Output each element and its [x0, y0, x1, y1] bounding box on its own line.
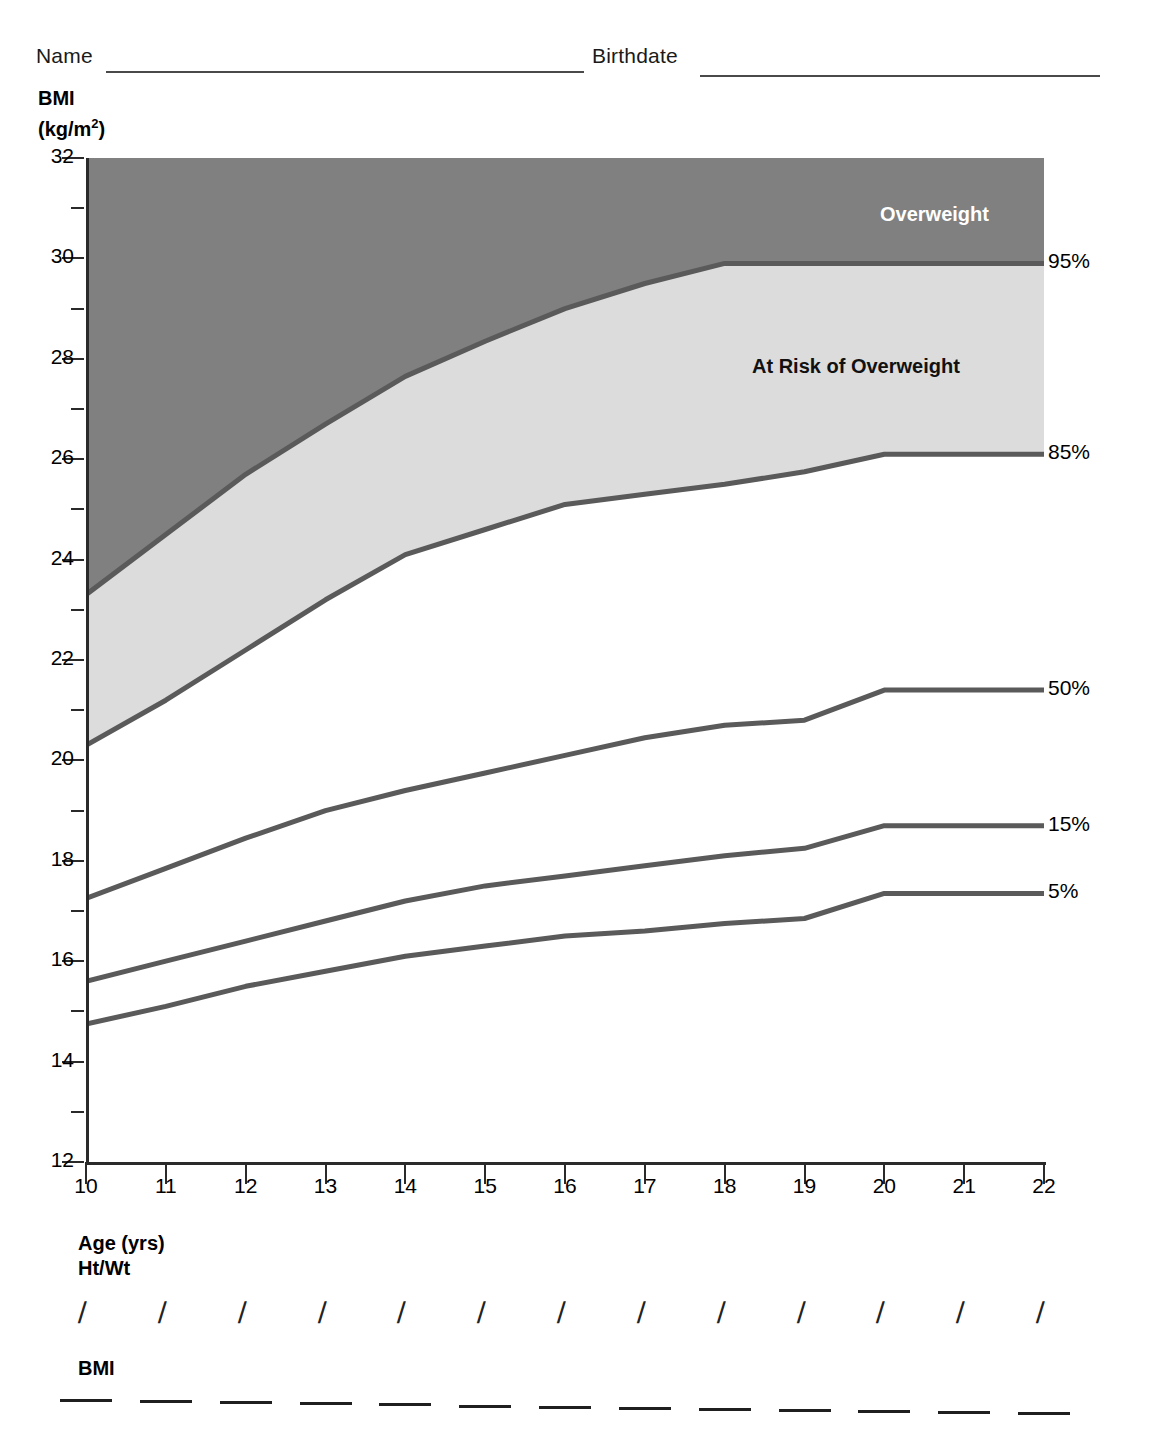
- htwt-entry-slash[interactable]: /: [876, 1296, 886, 1330]
- y-tick-label-20: 20: [34, 746, 74, 770]
- y-tick-label-30: 30: [34, 244, 74, 268]
- htwt-entry-slash[interactable]: /: [157, 1296, 167, 1330]
- name-label: Name: [36, 44, 93, 68]
- percentile-label-5pct: 5%: [1048, 879, 1078, 903]
- htwt-entry-slash[interactable]: /: [397, 1296, 407, 1330]
- y-tick-label-28: 28: [34, 345, 74, 369]
- x-tick-label-13: 13: [306, 1174, 346, 1198]
- bmi-entry-dash[interactable]: [619, 1407, 671, 1410]
- form-header: Name Birthdate: [0, 22, 1173, 62]
- birthdate-label: Birthdate: [592, 44, 678, 68]
- y-tick-minor-25: [71, 508, 84, 510]
- x-tick-label-18: 18: [705, 1174, 745, 1198]
- percentile-label-15pct: 15%: [1048, 812, 1090, 836]
- x-tick-label-16: 16: [545, 1174, 585, 1198]
- htwt-entry-slash[interactable]: /: [477, 1296, 487, 1330]
- htwt-entry-slash[interactable]: /: [237, 1296, 247, 1330]
- htwt-entry-slash[interactable]: /: [1035, 1296, 1045, 1330]
- x-tick-label-12: 12: [226, 1174, 266, 1198]
- bmi-entry-dash[interactable]: [220, 1401, 272, 1404]
- y-tick-label-12: 12: [34, 1148, 74, 1172]
- y-tick-minor-19: [71, 810, 84, 812]
- zone-label-overweight: Overweight: [880, 203, 989, 226]
- bmi-entry-dash[interactable]: [779, 1409, 831, 1412]
- bmi-entry-dash[interactable]: [379, 1403, 431, 1406]
- bmi-entry-dash[interactable]: [858, 1410, 910, 1413]
- htwt-entry-slash[interactable]: /: [956, 1296, 966, 1330]
- y-tick-label-22: 22: [34, 646, 74, 670]
- x-tick-label-19: 19: [785, 1174, 825, 1198]
- y-axis-line: [86, 158, 89, 1162]
- bmi-entry-dash[interactable]: [938, 1411, 990, 1414]
- x-axis-line: [86, 1162, 1046, 1165]
- y-tick-minor-17: [71, 910, 84, 912]
- x-tick-label-11: 11: [146, 1174, 186, 1198]
- y-tick-label-26: 26: [34, 445, 74, 469]
- percentile-label-50pct: 50%: [1048, 676, 1090, 700]
- bmi-row-label: BMI: [78, 1357, 115, 1380]
- bmi-entry-dash[interactable]: [60, 1399, 112, 1402]
- y-tick-minor-31: [71, 207, 84, 209]
- htwt-entry-slash[interactable]: /: [796, 1296, 806, 1330]
- bmi-entry-dash[interactable]: [459, 1405, 511, 1408]
- y-tick-minor-15: [71, 1010, 84, 1012]
- x-axis-title: Age (yrs): [78, 1232, 165, 1255]
- y-tick-minor-23: [71, 609, 84, 611]
- y-axis-title: BMI (kg/m2): [38, 86, 105, 142]
- y-axis-title-line1: BMI: [38, 86, 105, 111]
- birthdate-input-rule[interactable]: [700, 75, 1100, 77]
- y-tick-label-14: 14: [34, 1048, 74, 1072]
- htwt-entry-slash[interactable]: /: [716, 1296, 726, 1330]
- x-tick-label-20: 20: [864, 1174, 904, 1198]
- y-axis-units-pre: (kg/m: [38, 118, 91, 140]
- y-tick-minor-21: [71, 709, 84, 711]
- y-tick-label-16: 16: [34, 947, 74, 971]
- bmi-entry-dash[interactable]: [539, 1406, 591, 1409]
- y-tick-minor-29: [71, 308, 84, 310]
- percentile-label-95pct: 95%: [1048, 249, 1090, 273]
- bmi-entry-dash[interactable]: [1018, 1412, 1070, 1415]
- y-tick-label-24: 24: [34, 546, 74, 570]
- name-input-rule[interactable]: [106, 71, 584, 73]
- htwt-row-label: Ht/Wt: [78, 1257, 130, 1280]
- x-tick-label-14: 14: [385, 1174, 425, 1198]
- chart-plot-area: [86, 158, 1044, 1162]
- y-axis-units-post: ): [99, 118, 106, 140]
- htwt-entry-slash[interactable]: /: [636, 1296, 646, 1330]
- percentile-label-85pct: 85%: [1048, 440, 1090, 464]
- zone-label-at-risk: At Risk of Overweight: [752, 355, 960, 378]
- htwt-entry-slash[interactable]: /: [317, 1296, 327, 1330]
- y-tick-label-32: 32: [34, 144, 74, 168]
- bmi-entry-dash[interactable]: [140, 1400, 192, 1403]
- bmi-entry-dash[interactable]: [699, 1408, 751, 1411]
- y-tick-label-18: 18: [34, 847, 74, 871]
- htwt-entry-slash[interactable]: /: [77, 1296, 87, 1330]
- x-tick-label-17: 17: [625, 1174, 665, 1198]
- percentile-chart-svg: [86, 158, 1044, 1162]
- x-tick-label-15: 15: [465, 1174, 505, 1198]
- y-axis-units-exponent: 2: [91, 116, 98, 131]
- htwt-entry-slash[interactable]: /: [556, 1296, 566, 1330]
- y-axis-title-line2: (kg/m2): [38, 111, 105, 142]
- x-tick-label-21: 21: [944, 1174, 984, 1198]
- y-tick-minor-27: [71, 408, 84, 410]
- y-tick-minor-13: [71, 1111, 84, 1113]
- bmi-entry-dash[interactable]: [300, 1402, 352, 1405]
- x-tick-label-22: 22: [1024, 1174, 1064, 1198]
- x-tick-label-10: 10: [66, 1174, 106, 1198]
